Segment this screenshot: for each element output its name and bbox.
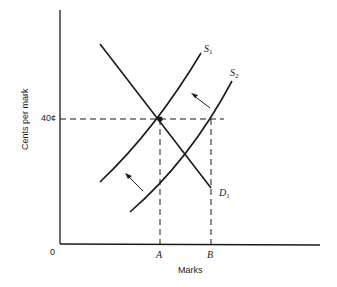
s2-label: S2 (230, 68, 239, 80)
x-axis-label: Marks (178, 266, 203, 275)
s1-label: S1 (204, 44, 213, 56)
d1-label: D1 (219, 188, 230, 200)
equilibrium-point (157, 116, 162, 121)
supply-curve-s2 (130, 81, 232, 212)
x-axis (60, 244, 320, 245)
x-tick-b: B (207, 250, 213, 260)
shift-arrow-upper-icon (191, 93, 210, 108)
shift-arrow-lower-icon (125, 173, 143, 191)
x-tick-a: A (156, 250, 162, 260)
chart-plot (0, 0, 337, 287)
price-tick-label: 40¢ (41, 114, 56, 123)
supply-curve-s1 (100, 53, 201, 182)
y-axis-label: Cents per mark (21, 88, 30, 150)
origin-label: 0 (50, 248, 55, 257)
